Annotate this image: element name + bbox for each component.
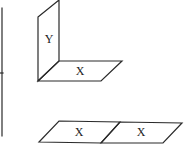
- label-y: Y: [45, 32, 54, 46]
- label-x-horizontal: X: [76, 64, 85, 78]
- label-x-right: X: [137, 125, 146, 139]
- label-x-left: X: [75, 125, 84, 139]
- diagram-canvas: Y X X X: [0, 0, 192, 158]
- l-shape-figure: Y X: [38, 0, 122, 81]
- two-planes-figure: X X: [39, 121, 182, 143]
- left-edge-fragment: [0, 8, 3, 136]
